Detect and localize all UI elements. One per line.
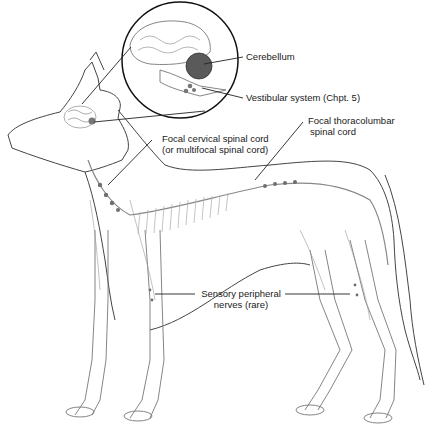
label-vestibular-system: Vestibular system (Chpt. 5) [246, 92, 360, 103]
label-focal-thoracolumbar-line2: spinal cord [310, 126, 356, 137]
brain-small [64, 106, 96, 128]
label-focal-cervical-line2: (or multifocal spinal cord) [162, 144, 268, 155]
leg-bones [66, 230, 396, 423]
label-focal-cervical-line1: Focal cervical spinal cord [162, 133, 269, 144]
magnified-brain-inset [122, 2, 238, 118]
label-focal-thoracolumbar-line1: Focal thoracolumbar [308, 115, 395, 126]
anatomy-figure: Cerebellum Vestibular system (Chpt. 5) F… [0, 0, 426, 427]
label-sensory-peripheral-line2: nerves (rare) [198, 299, 284, 310]
cerebellum-large [186, 53, 212, 79]
label-sensory-peripheral-line1: Sensory peripheral [198, 288, 284, 299]
cerebellum-marker [89, 118, 96, 125]
dog-illustration [0, 0, 426, 427]
label-cerebellum: Cerebellum [246, 51, 295, 62]
lesion-markers [98, 180, 359, 301]
ribs [138, 193, 228, 234]
